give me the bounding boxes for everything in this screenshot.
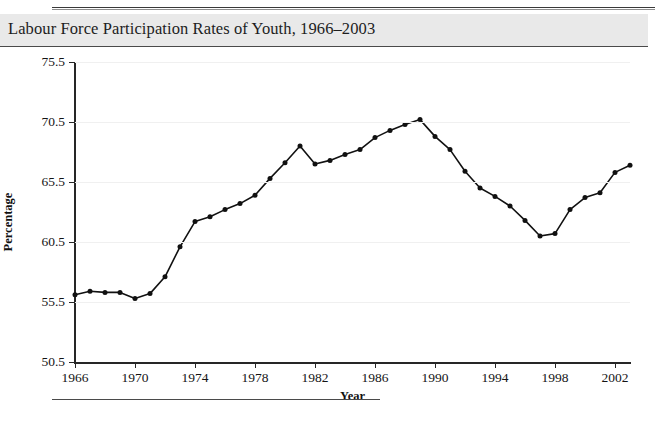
- data-point-marker: [268, 176, 273, 181]
- data-point-marker: [598, 190, 603, 195]
- x-axis-tick: [75, 362, 76, 368]
- data-point-marker: [283, 160, 288, 165]
- data-point-marker: [193, 219, 198, 224]
- y-axis-tick-label: 60.5: [41, 234, 65, 250]
- data-point-marker: [583, 195, 588, 200]
- data-point-marker: [118, 290, 123, 295]
- x-axis-title: Year: [75, 389, 630, 404]
- figure-title: Labour Force Participation Rates of Yout…: [8, 19, 375, 39]
- data-point-marker: [223, 207, 228, 212]
- data-point-marker: [388, 128, 393, 133]
- x-axis-tick-label: 1982: [302, 370, 329, 386]
- y-axis-tick: [69, 182, 75, 183]
- plot-area: 50.555.560.565.570.575.51966197019741978…: [75, 62, 630, 362]
- data-point-marker: [538, 234, 543, 239]
- gridline-horizontal: [75, 62, 630, 63]
- x-axis-tick: [135, 362, 136, 368]
- x-axis-tick: [495, 362, 496, 368]
- data-point-marker: [148, 291, 153, 296]
- data-point-marker: [298, 144, 303, 149]
- gridline-horizontal: [75, 242, 630, 243]
- x-axis-tick-label: 1986: [362, 370, 389, 386]
- x-axis-tick: [315, 362, 316, 368]
- data-point-marker: [328, 158, 333, 163]
- top-rule-thick: [52, 7, 655, 8]
- data-point-marker: [508, 204, 513, 209]
- x-axis-tick-label: 2002: [602, 370, 629, 386]
- data-point-marker: [178, 244, 183, 249]
- data-point-marker: [613, 170, 618, 175]
- data-point-marker: [88, 289, 93, 294]
- top-rule-thin: [52, 9, 655, 10]
- y-axis-tick: [69, 302, 75, 303]
- x-axis-tick: [195, 362, 196, 368]
- chart-figure: Percentage 50.555.560.565.570.575.519661…: [0, 46, 655, 391]
- x-axis-tick: [615, 362, 616, 368]
- figure-page: Labour Force Participation Rates of Yout…: [0, 0, 655, 429]
- data-point-marker: [238, 201, 243, 206]
- x-axis-line: [74, 362, 631, 364]
- y-axis-tick-label: 50.5: [41, 354, 65, 370]
- data-point-marker: [628, 163, 633, 168]
- data-point-marker: [163, 274, 168, 279]
- data-point-marker: [133, 296, 138, 301]
- bottom-rule: [52, 399, 380, 400]
- data-point-marker: [208, 214, 213, 219]
- data-point-marker: [73, 292, 78, 297]
- x-axis-tick: [435, 362, 436, 368]
- data-point-marker: [493, 194, 498, 199]
- x-axis-tick-label: 1970: [122, 370, 149, 386]
- data-point-marker: [553, 231, 558, 236]
- data-point-marker: [103, 290, 108, 295]
- data-point-marker: [253, 193, 258, 198]
- y-axis-tick: [69, 62, 75, 63]
- x-axis-tick: [375, 362, 376, 368]
- data-point-marker: [373, 135, 378, 140]
- x-axis-tick-label: 1978: [242, 370, 269, 386]
- x-axis-tick-label: 1966: [62, 370, 89, 386]
- y-axis-tick: [69, 242, 75, 243]
- x-axis-tick-label: 1998: [542, 370, 569, 386]
- data-point-marker: [523, 218, 528, 223]
- y-axis-tick-label: 75.5: [41, 54, 65, 70]
- series-polyline: [75, 120, 630, 299]
- x-axis-tick: [555, 362, 556, 368]
- data-point-marker: [343, 152, 348, 157]
- gridline-horizontal: [75, 302, 630, 303]
- gridline-horizontal: [75, 182, 630, 183]
- data-point-marker: [463, 169, 468, 174]
- data-point-marker: [358, 147, 363, 152]
- data-point-marker: [433, 134, 438, 139]
- y-axis-tick: [69, 122, 75, 123]
- data-point-marker: [313, 162, 318, 167]
- figure-title-banner: Labour Force Participation Rates of Yout…: [0, 14, 648, 46]
- y-axis-title: Percentage: [1, 193, 16, 252]
- x-axis-tick-label: 1994: [482, 370, 509, 386]
- x-axis-tick-label: 1990: [422, 370, 449, 386]
- gridline-horizontal: [75, 122, 630, 123]
- y-axis-tick-label: 65.5: [41, 174, 65, 190]
- data-point-marker: [478, 186, 483, 191]
- data-series-line: [75, 62, 630, 362]
- x-axis-tick-label: 1974: [182, 370, 209, 386]
- x-axis-tick: [255, 362, 256, 368]
- data-point-marker: [448, 147, 453, 152]
- data-point-marker: [568, 207, 573, 212]
- y-axis-tick-label: 55.5: [41, 294, 65, 310]
- y-axis-tick-label: 70.5: [41, 114, 65, 130]
